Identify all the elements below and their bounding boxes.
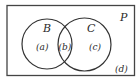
venn-diagram: P B C (a) (b) (c) (d) [0,0,139,81]
region-c-label: (c) [89,42,102,52]
region-d-label: (d) [115,64,128,74]
region-a-label: (a) [36,42,49,52]
set-c-label: C [87,22,96,35]
region-b-label: (b) [59,42,72,52]
set-b-label: B [42,22,51,35]
universe-label: P [119,11,128,24]
